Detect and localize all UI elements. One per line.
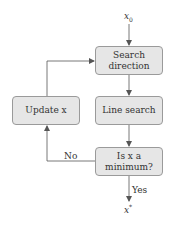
node-search-direction-line2: direction: [108, 61, 149, 72]
node-search-direction-line1: Search: [108, 50, 149, 61]
edge-label-yes: Yes: [132, 185, 147, 195]
end-superscript: *: [129, 203, 132, 210]
edge-update-to-search: [47, 61, 94, 96]
end-label: x*: [124, 205, 132, 215]
start-subscript: 0: [129, 16, 133, 23]
edge-label-no: No: [64, 151, 77, 161]
start-label: x0: [124, 11, 133, 21]
node-decision-line1: Is x a: [105, 151, 153, 162]
optimization-flowchart: x0 Search direction Update x Line search…: [0, 0, 174, 227]
node-decision-is-minimum: Is x a minimum?: [95, 147, 163, 176]
node-update-x-label: Update x: [25, 105, 66, 116]
node-line-search-label: Line search: [102, 105, 155, 116]
node-line-search: Line search: [95, 96, 163, 125]
node-decision-line2: minimum?: [105, 162, 153, 173]
node-update-x: Update x: [12, 96, 80, 125]
node-search-direction: Search direction: [95, 46, 163, 75]
